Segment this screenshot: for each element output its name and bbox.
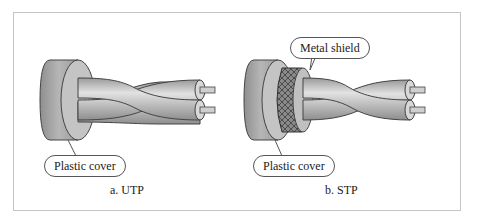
stp-plastic-cover-callout: Plastic cover bbox=[253, 155, 335, 177]
utp-caption: a. UTP bbox=[110, 183, 144, 198]
stp-caption: b. STP bbox=[325, 183, 358, 198]
utp-cable-icon bbox=[40, 60, 215, 156]
stp-cable-icon bbox=[244, 56, 425, 156]
stp-metal-shield-callout: Metal shield bbox=[290, 37, 370, 59]
utp-plastic-cover-callout: Plastic cover bbox=[44, 155, 126, 177]
cable-illustrations bbox=[0, 0, 480, 221]
